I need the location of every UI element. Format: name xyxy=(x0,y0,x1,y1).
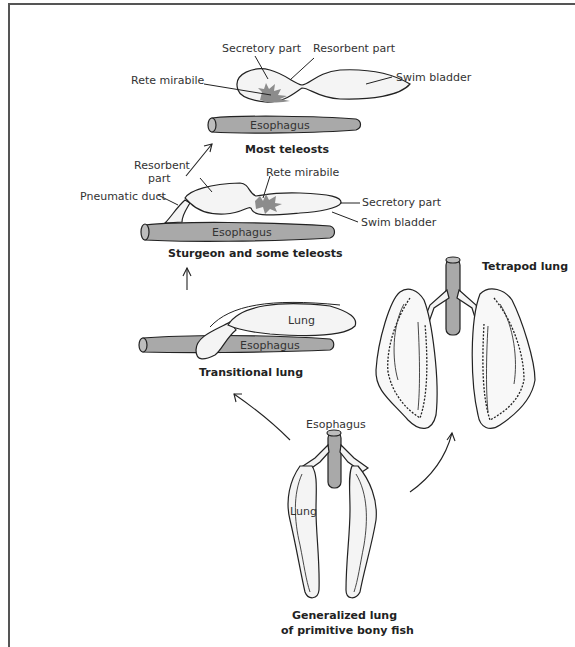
pneumatic-duct-shape xyxy=(165,200,190,223)
label-lung: Lung xyxy=(288,314,315,327)
caption-sturgeon: Sturgeon and some teleosts xyxy=(168,247,343,260)
label-pneumatic-duct: Pneumatic duct xyxy=(80,190,167,203)
label-esophagus: Esophagus xyxy=(212,226,272,239)
label-esophagus: Esophagus xyxy=(240,339,300,352)
label-esophagus: Esophagus xyxy=(250,119,310,132)
esophagus-end xyxy=(141,224,149,240)
sturgeon-panel: Resorbent part Rete mirabile Pneumatic d… xyxy=(80,159,442,260)
label-resorbent-part-line1: Resorbent xyxy=(134,159,191,172)
most-teleosts-panel: Secretory part Resorbent part Rete mirab… xyxy=(131,42,472,156)
left-lung-lobe xyxy=(376,289,437,428)
primitive-lung-panel: Esophagus Lung Generalized lung of primi… xyxy=(281,418,414,637)
caption-transitional: Transitional lung xyxy=(199,366,303,379)
label-swim-bladder: Swim bladder xyxy=(396,71,472,84)
label-secretory-part: Secretory part xyxy=(222,42,302,55)
esophagus-end xyxy=(208,118,216,132)
esophagus-tube xyxy=(143,336,334,353)
evolution-diagram: Secretory part Resorbent part Rete mirab… xyxy=(0,0,575,647)
label-secretory-part: Secretory part xyxy=(362,196,442,209)
leader-swim-bladder xyxy=(332,212,358,222)
caption-primitive-line2: of primitive bony fish xyxy=(281,624,414,637)
arrow-transitional-to-sturgeon xyxy=(183,268,191,290)
label-esophagus: Esophagus xyxy=(306,418,366,431)
label-lung: Lung xyxy=(290,505,317,518)
tetrapod-lung-panel: Tetrapod lung xyxy=(376,257,568,428)
label-resorbent-part-line2: part xyxy=(148,172,171,185)
transitional-lung-panel: Lung Esophagus Transitional lung xyxy=(139,302,356,379)
label-rete-mirabile: Rete mirabile xyxy=(266,166,340,179)
label-swim-bladder: Swim bladder xyxy=(361,216,437,229)
leader-resorbent xyxy=(290,58,314,80)
label-resorbent-part: Resorbent part xyxy=(313,42,396,55)
caption-primitive-line1: Generalized lung xyxy=(292,609,397,622)
arrow-primitive-to-transitional xyxy=(234,394,290,440)
caption-most-teleosts: Most teleosts xyxy=(245,143,329,156)
esophagus-tube xyxy=(328,432,341,488)
trachea-end xyxy=(446,257,460,263)
label-rete-mirabile: Rete mirabile xyxy=(131,74,205,87)
esophagus-end xyxy=(139,338,147,352)
caption-tetrapod: Tetrapod lung xyxy=(482,260,568,273)
left-lung-sac xyxy=(288,466,319,598)
arrow-primitive-to-tetrapod xyxy=(410,433,455,492)
